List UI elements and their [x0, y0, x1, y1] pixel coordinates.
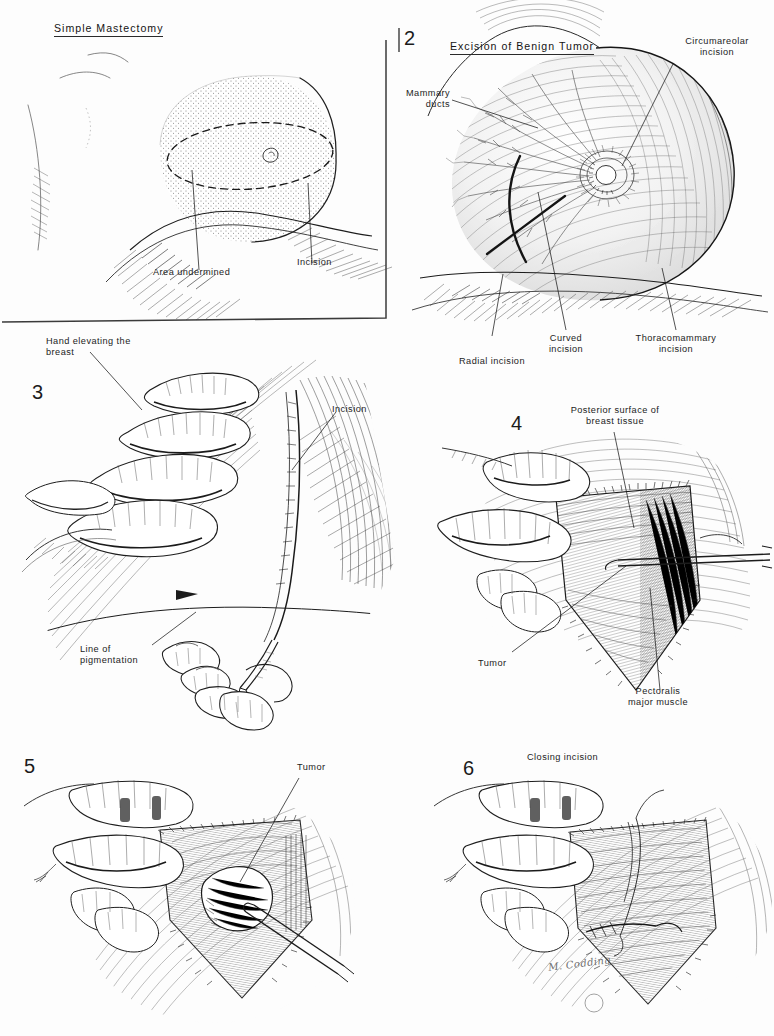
leader-hand-elevating	[90, 352, 142, 410]
panel-3-number: 3	[32, 381, 43, 404]
label-tumor-p4: Tumor	[478, 658, 506, 669]
label-line-of-pigmentation: Line of pigmentation	[80, 644, 138, 667]
panel-2-title: Excision of Benign Tumor	[450, 40, 594, 55]
panel-1-title: Simple Mastectomy	[54, 22, 163, 37]
panel-5-number: 5	[24, 755, 35, 778]
label-thoracomammary-incision: Thoracomammary incision	[612, 333, 740, 356]
panel-4-number: 4	[511, 412, 522, 435]
panel-6-title: Closing incision	[527, 752, 598, 763]
illustration-artwork	[0, 0, 774, 1036]
retracting-hand-p5	[24, 780, 193, 952]
surgical-illustration-plate: Simple Mastectomy Area undermined Incisi…	[0, 0, 774, 1036]
leader-pigmentation	[152, 612, 196, 645]
panel-5-artwork	[24, 778, 377, 1024]
elevating-hand	[22, 373, 259, 572]
label-posterior-surface: Posterior surface of breast tissue	[544, 405, 686, 428]
tumor-mass-p5	[202, 867, 273, 931]
label-circumareolar-incision: Circumareolar incision	[664, 36, 770, 59]
label-tumor-p5: Tumor	[297, 762, 325, 773]
label-area-undermined: Area undermined	[153, 267, 230, 278]
panel-6-artwork	[434, 780, 774, 1021]
label-pectoralis-major-muscle: Pectoralis major muscle	[602, 686, 714, 709]
label-mammary-ducts: Mammary ducts	[386, 88, 450, 111]
scalpel	[238, 640, 278, 700]
label-curved-incision: Curved incision	[522, 333, 610, 356]
surgeon-hand-p3	[162, 642, 292, 730]
wound-cavity-p6	[570, 820, 716, 1004]
incision-wound-line	[264, 390, 299, 642]
label-incision-p3: Incision	[332, 404, 367, 415]
label-radial-incision: Radial incision	[426, 356, 558, 367]
label-hand-elevating-breast: Hand elevating the breast	[46, 336, 131, 359]
retracting-hand-p4	[438, 448, 590, 632]
panel-6-number: 6	[463, 757, 474, 780]
panel-2-number: 2	[404, 27, 415, 50]
label-incision-p1: Incision	[297, 257, 332, 268]
